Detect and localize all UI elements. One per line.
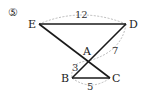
length-ED: 12: [75, 9, 88, 20]
geometry-figure: ⑤ E D A B C 12 7 3 5: [0, 0, 144, 92]
length-AD: 7: [112, 45, 118, 56]
label-E: E: [28, 18, 36, 31]
label-D: D: [129, 18, 138, 31]
label-C: C: [112, 72, 120, 85]
length-BC: 5: [87, 81, 93, 92]
problem-number: ⑤: [8, 6, 18, 19]
length-AB: 3: [72, 62, 78, 73]
label-B: B: [61, 72, 69, 85]
label-A: A: [82, 45, 92, 58]
